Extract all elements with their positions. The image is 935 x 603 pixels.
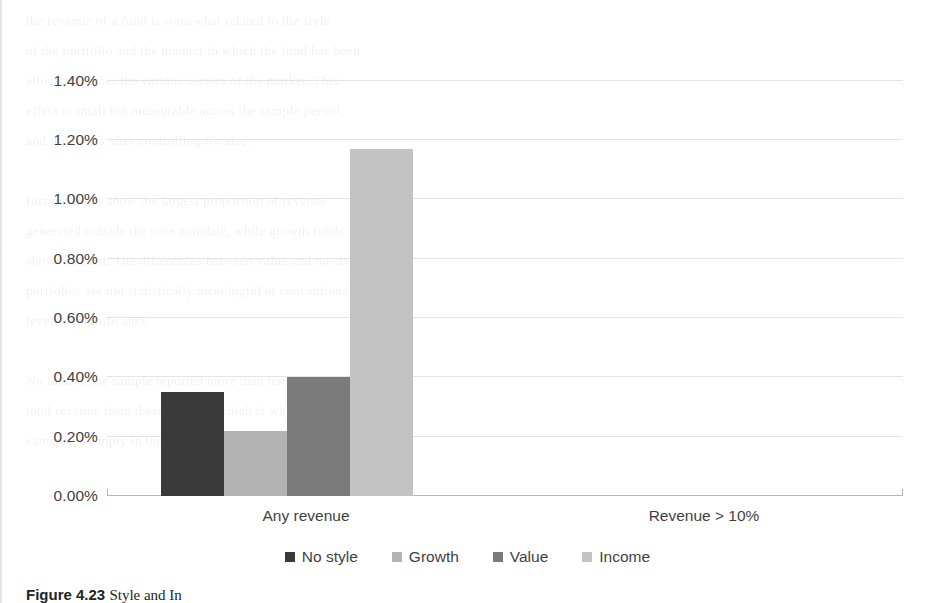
legend-swatch-icon xyxy=(493,552,503,562)
y-tick-label: 0.80% xyxy=(30,250,98,268)
x-tick-label: Any revenue xyxy=(262,507,349,525)
legend-item: Growth xyxy=(392,548,459,566)
legend-item: Income xyxy=(582,548,650,566)
legend-swatch-icon xyxy=(582,552,592,562)
figure-caption-text: Style and In xyxy=(109,587,182,603)
bar xyxy=(224,431,287,496)
axis-tick xyxy=(107,489,108,496)
gridline xyxy=(107,139,903,140)
y-tick-label: 1.20% xyxy=(30,131,98,149)
x-axis-labels: Any revenueRevenue > 10% xyxy=(107,507,903,533)
chart-legend: No styleGrowthValueIncome xyxy=(0,548,935,566)
bar-chart: 0.00%0.20%0.40%0.60%0.80%1.00%1.20%1.40%… xyxy=(0,0,935,603)
y-tick-label: 1.40% xyxy=(30,72,98,90)
legend-label: Growth xyxy=(409,548,459,566)
y-axis-labels: 0.00%0.20%0.40%0.60%0.80%1.00%1.20%1.40% xyxy=(30,0,98,603)
gridline xyxy=(107,80,903,81)
bar xyxy=(350,149,413,496)
plot-area xyxy=(107,51,903,496)
axis-tick xyxy=(902,489,903,496)
y-tick-label: 0.40% xyxy=(30,368,98,386)
figure-number: Figure 4.23 xyxy=(26,586,109,603)
legend-label: Value xyxy=(510,548,549,566)
legend-swatch-icon xyxy=(285,552,295,562)
y-tick-label: 0.20% xyxy=(30,428,98,446)
legend-item: No style xyxy=(285,548,358,566)
y-tick-label: 0.60% xyxy=(30,309,98,327)
y-tick-label: 1.00% xyxy=(30,190,98,208)
y-tick-label: 0.00% xyxy=(30,487,98,505)
figure-caption: Figure 4.23 Style and In xyxy=(26,586,182,603)
gridline xyxy=(107,258,903,259)
legend-label: Income xyxy=(599,548,650,566)
legend-swatch-icon xyxy=(392,552,402,562)
gridline xyxy=(107,198,903,199)
gridline xyxy=(107,317,903,318)
bar xyxy=(287,377,350,496)
gridline xyxy=(107,376,903,377)
legend-item: Value xyxy=(493,548,549,566)
bar xyxy=(161,392,224,496)
legend-label: No style xyxy=(302,548,358,566)
x-tick-label: Revenue > 10% xyxy=(649,507,760,525)
